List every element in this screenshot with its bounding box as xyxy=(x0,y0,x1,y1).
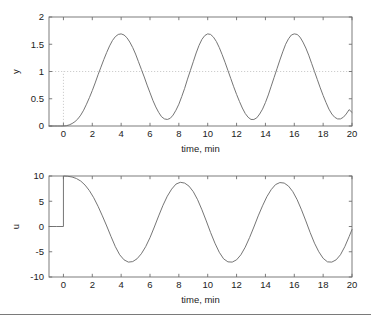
y-tick-label: 0.5 xyxy=(31,93,44,104)
y-tick-label: 2 xyxy=(39,11,44,22)
x-tick-label: 6 xyxy=(147,279,152,290)
data-line-u xyxy=(49,176,352,262)
plot-frame xyxy=(49,176,352,277)
chart-panel-control: 02468101214161820-10-50510time, minu xyxy=(0,163,371,308)
figure-container: 0246810121416182000.511.52time, miny 024… xyxy=(0,0,371,323)
output-response-plot: 0246810121416182000.511.52time, miny xyxy=(0,0,371,163)
y-tick-label: 0 xyxy=(39,120,44,131)
x-tick-label: 18 xyxy=(318,279,329,290)
y-tick-label: 1.5 xyxy=(31,39,44,50)
x-tick-label: 20 xyxy=(347,279,358,290)
y-axis-title: u xyxy=(10,224,21,229)
x-tick-label: 8 xyxy=(176,279,181,290)
control-effort-plot: 02468101214161820-10-50510time, minu xyxy=(0,163,371,308)
x-tick-label: 10 xyxy=(202,279,213,290)
x-tick-label: 16 xyxy=(289,128,300,139)
x-tick-label: 0 xyxy=(61,128,66,139)
y-tick-label: 0 xyxy=(39,221,44,232)
chart-panel-output: 0246810121416182000.511.52time, miny xyxy=(0,0,371,163)
x-tick-label: 12 xyxy=(231,128,242,139)
y-axis-title: y xyxy=(10,69,21,74)
x-tick-label: 18 xyxy=(318,128,329,139)
x-axis-title: time, min xyxy=(181,294,220,305)
x-tick-label: 0 xyxy=(61,279,66,290)
x-tick-label: 2 xyxy=(90,128,95,139)
footer-divider xyxy=(0,314,371,315)
x-tick-label: 2 xyxy=(90,279,95,290)
x-tick-label: 8 xyxy=(176,128,181,139)
y-tick-label: -5 xyxy=(36,246,44,257)
x-tick-label: 4 xyxy=(118,279,123,290)
x-tick-label: 14 xyxy=(260,279,271,290)
y-tick-label: -10 xyxy=(30,271,44,282)
y-tick-label: 5 xyxy=(39,196,44,207)
x-tick-label: 6 xyxy=(147,128,152,139)
x-tick-label: 12 xyxy=(231,279,242,290)
x-tick-label: 16 xyxy=(289,279,300,290)
data-line-y xyxy=(49,34,352,126)
y-tick-label: 10 xyxy=(33,170,44,181)
x-tick-label: 4 xyxy=(118,128,123,139)
x-axis-title: time, min xyxy=(181,143,220,154)
x-tick-label: 14 xyxy=(260,128,271,139)
x-tick-label: 20 xyxy=(347,128,358,139)
x-tick-label: 10 xyxy=(202,128,213,139)
y-tick-label: 1 xyxy=(39,66,44,77)
